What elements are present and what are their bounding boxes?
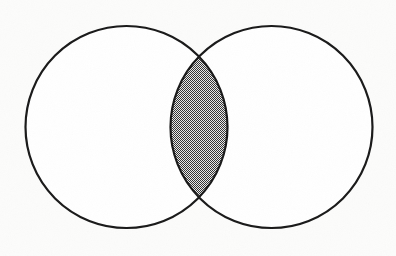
paper-grain-overlay <box>0 0 396 256</box>
venn-diagram-canvas <box>0 0 396 256</box>
venn-diagram-figure <box>0 0 396 256</box>
